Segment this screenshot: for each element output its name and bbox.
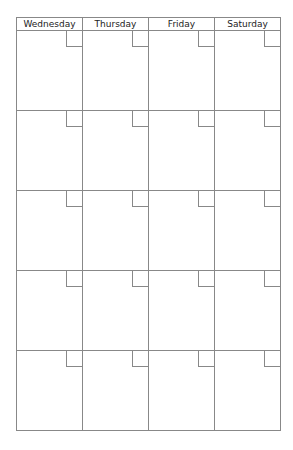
date-number-box [264, 191, 280, 207]
day-cell [17, 111, 83, 191]
date-number-box [66, 271, 82, 287]
date-number-box [66, 111, 82, 127]
day-cell [17, 191, 83, 271]
calendar-grid: Wednesday Thursday Friday Saturday [16, 17, 281, 431]
day-cell [149, 271, 215, 351]
day-header-friday: Friday [149, 18, 215, 31]
day-header-wednesday: Wednesday [17, 18, 83, 31]
date-number-box [132, 111, 148, 127]
week-row [17, 271, 281, 351]
date-number-box [66, 191, 82, 207]
week-row [17, 191, 281, 271]
day-cell [149, 351, 215, 431]
day-cell [215, 191, 281, 271]
date-number-box [66, 351, 82, 367]
day-cell [83, 191, 149, 271]
day-cell [83, 111, 149, 191]
day-cell [83, 31, 149, 111]
date-number-box [132, 351, 148, 367]
date-number-box [198, 111, 214, 127]
date-number-box [198, 351, 214, 367]
week-row [17, 351, 281, 431]
date-number-box [132, 191, 148, 207]
day-cell [215, 31, 281, 111]
day-cell [17, 271, 83, 351]
date-number-box [198, 191, 214, 207]
date-number-box [198, 31, 214, 47]
day-cell [17, 351, 83, 431]
date-number-box [264, 271, 280, 287]
day-cell [215, 351, 281, 431]
week-row [17, 111, 281, 191]
week-row [17, 31, 281, 111]
date-number-box [132, 31, 148, 47]
day-cell [149, 31, 215, 111]
date-number-box [132, 271, 148, 287]
day-cell [17, 31, 83, 111]
day-cell [83, 351, 149, 431]
day-cell [149, 191, 215, 271]
date-number-box [264, 351, 280, 367]
day-header-thursday: Thursday [83, 18, 149, 31]
day-cell [83, 271, 149, 351]
date-number-box [66, 31, 82, 47]
day-header-saturday: Saturday [215, 18, 281, 31]
date-number-box [198, 271, 214, 287]
date-number-box [264, 111, 280, 127]
date-number-box [264, 31, 280, 47]
day-cell [215, 111, 281, 191]
day-header-row: Wednesday Thursday Friday Saturday [17, 18, 281, 31]
day-cell [149, 111, 215, 191]
day-cell [215, 271, 281, 351]
